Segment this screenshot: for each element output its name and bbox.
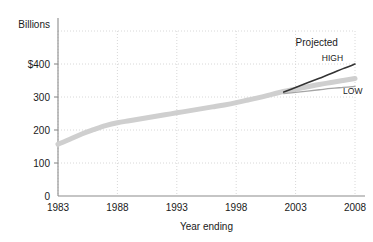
chart-container: $4003002001000Billions198319881993199820… bbox=[0, 0, 373, 242]
x-axis-tick-label: 1998 bbox=[225, 202, 248, 213]
tick-marks bbox=[54, 64, 58, 163]
series-line-actual bbox=[58, 91, 284, 144]
gridlines bbox=[58, 31, 355, 196]
y-axis-unit-label: Billions bbox=[18, 19, 50, 30]
annotation-high: HIGH bbox=[322, 53, 343, 63]
annotation-projected: Projected bbox=[296, 37, 338, 48]
line-chart: $4003002001000Billions198319881993199820… bbox=[0, 0, 373, 242]
annotation-low: LOW bbox=[343, 86, 362, 96]
x-axis-tick-label: 2008 bbox=[344, 202, 367, 213]
x-axis-title: Year ending bbox=[180, 221, 233, 232]
data-series-layer bbox=[58, 64, 355, 144]
x-axis-tick-label: 1988 bbox=[106, 202, 129, 213]
x-axis-tick-label: 1993 bbox=[166, 202, 189, 213]
x-axis-tick-label: 2003 bbox=[284, 202, 307, 213]
labels-layer: $4003002001000Billions198319881993199820… bbox=[18, 19, 366, 232]
y-axis-tick-label: 300 bbox=[33, 92, 50, 103]
y-axis-tick-label: 0 bbox=[44, 191, 50, 202]
y-axis-tick-label: $400 bbox=[28, 59, 51, 70]
x-axis-tick-label: 1983 bbox=[47, 202, 70, 213]
y-axis-tick-label: 100 bbox=[33, 158, 50, 169]
y-axis-tick-label: 200 bbox=[33, 125, 50, 136]
